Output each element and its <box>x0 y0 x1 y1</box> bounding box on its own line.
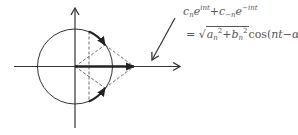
rotation-arc-upper <box>89 32 105 46</box>
exponent: int <box>200 4 210 12</box>
sqrt-radicand: an2+bn2 <box>206 26 249 42</box>
sub-n: n <box>239 34 244 42</box>
phasor-diagram <box>0 0 298 135</box>
sup-2: 2 <box>243 27 247 35</box>
equals: = <box>186 28 195 41</box>
formula-line-1: cneint+c−ne−int <box>183 4 257 19</box>
nt: nt <box>271 28 283 41</box>
pointer-arrow <box>152 18 175 60</box>
minus: − <box>283 28 292 41</box>
b: b <box>232 28 239 41</box>
sqrt-icon: √ <box>199 28 206 41</box>
exponent: −int <box>242 4 257 12</box>
cos: cos( <box>249 28 272 41</box>
rotation-arc-lower <box>89 88 105 102</box>
plus: + <box>222 28 231 41</box>
sub-n: n <box>213 34 218 42</box>
alpha: α <box>292 28 298 41</box>
sub-minus-n: −n <box>225 11 235 19</box>
formula-line-2: = √an2+bn2cos(nt−αn) <box>186 26 298 42</box>
plus: + <box>210 5 219 18</box>
